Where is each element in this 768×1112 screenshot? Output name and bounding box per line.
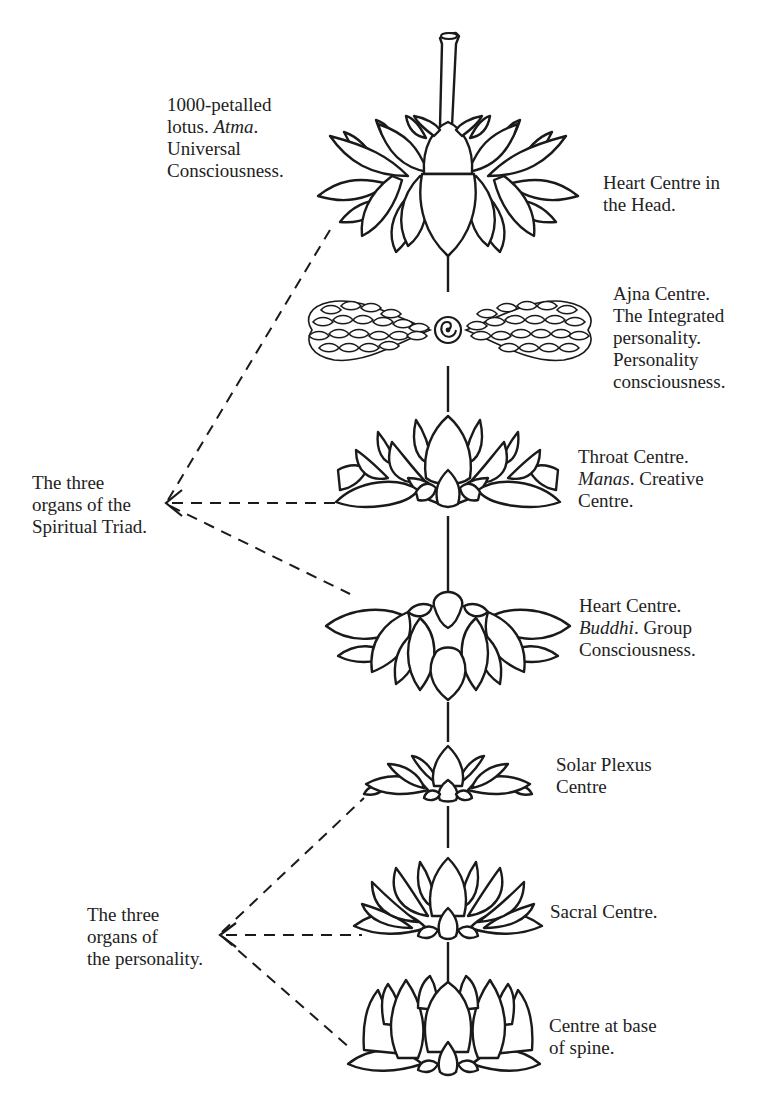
label-line: consciousness. <box>613 371 725 393</box>
spiritual-triad-connectors <box>168 230 350 594</box>
label-line: Manas. Creative <box>578 468 704 490</box>
label-line: Spiritual Triad. <box>32 516 147 538</box>
label-line: the personality. <box>87 948 203 970</box>
label-line: Throat Centre. <box>578 446 704 468</box>
label-text: . Creative <box>630 468 704 489</box>
label-ajna-centre: Ajna Centre. The Integrated personality.… <box>613 283 725 393</box>
label-line: 1000-petalled <box>167 94 284 116</box>
label-line: The Integrated <box>613 305 725 327</box>
label-line: Ajna Centre. <box>613 283 725 305</box>
label-line: Solar Plexus <box>556 754 652 776</box>
label-line: Sacral Centre. <box>550 901 658 923</box>
label-italic-term: Atma <box>213 116 253 137</box>
label-text: lotus. <box>167 116 213 137</box>
label-line: Heart Centre in <box>603 172 720 194</box>
label-italic-term: Buddhi <box>579 617 634 638</box>
label-line: organs of <box>87 926 203 948</box>
label-throat-centre: Throat Centre. Manas. Creative Centre. <box>578 446 704 512</box>
label-solar-plexus-centre: Solar Plexus Centre <box>556 754 652 798</box>
label-line: Consciousness. <box>167 160 284 182</box>
label-line: Heart Centre. <box>579 595 696 617</box>
label-line: Centre. <box>578 490 704 512</box>
label-line: Buddhi. Group <box>579 617 696 639</box>
label-line: personality. <box>613 327 725 349</box>
label-base-of-spine-centre: Centre at base of spine. <box>549 1015 657 1059</box>
label-text: . Group <box>634 617 692 638</box>
label-line: Consciousness. <box>579 639 696 661</box>
label-heart-centre: Heart Centre. Buddhi. Group Consciousnes… <box>579 595 696 661</box>
lotus-head-icon <box>318 33 578 256</box>
label-line: Universal <box>167 138 284 160</box>
lotus-heart-icon <box>326 592 570 700</box>
ajna-lotus-icon <box>309 301 591 360</box>
label-line: organs of the <box>32 494 147 516</box>
label-line: of spine. <box>549 1037 657 1059</box>
label-line: Personality <box>613 349 725 371</box>
label-sacral-centre: Sacral Centre. <box>550 901 658 923</box>
label-italic-term: Manas <box>578 468 630 489</box>
label-line: The three <box>32 472 147 494</box>
label-heart-centre-in-head: Heart Centre in the Head. <box>603 172 720 216</box>
lotus-sacral-icon <box>354 858 542 939</box>
label-1000-petalled-lotus: 1000-petalled lotus. Atma. Universal Con… <box>167 94 284 182</box>
label-spiritual-triad: The three organs of the Spiritual Triad. <box>32 472 147 538</box>
lotus-base-icon <box>348 976 540 1075</box>
label-line: lotus. Atma. <box>167 116 284 138</box>
lotus-throat-icon <box>336 416 560 507</box>
label-line: Centre <box>556 776 652 798</box>
label-text: . <box>254 116 259 137</box>
label-personality: The three organs of the personality. <box>87 904 203 970</box>
label-line: Centre at base <box>549 1015 657 1037</box>
label-line: the Head. <box>603 194 720 216</box>
label-line: The three <box>87 904 203 926</box>
lotus-solar-plexus-icon <box>364 746 532 802</box>
personality-connectors <box>222 798 364 1048</box>
